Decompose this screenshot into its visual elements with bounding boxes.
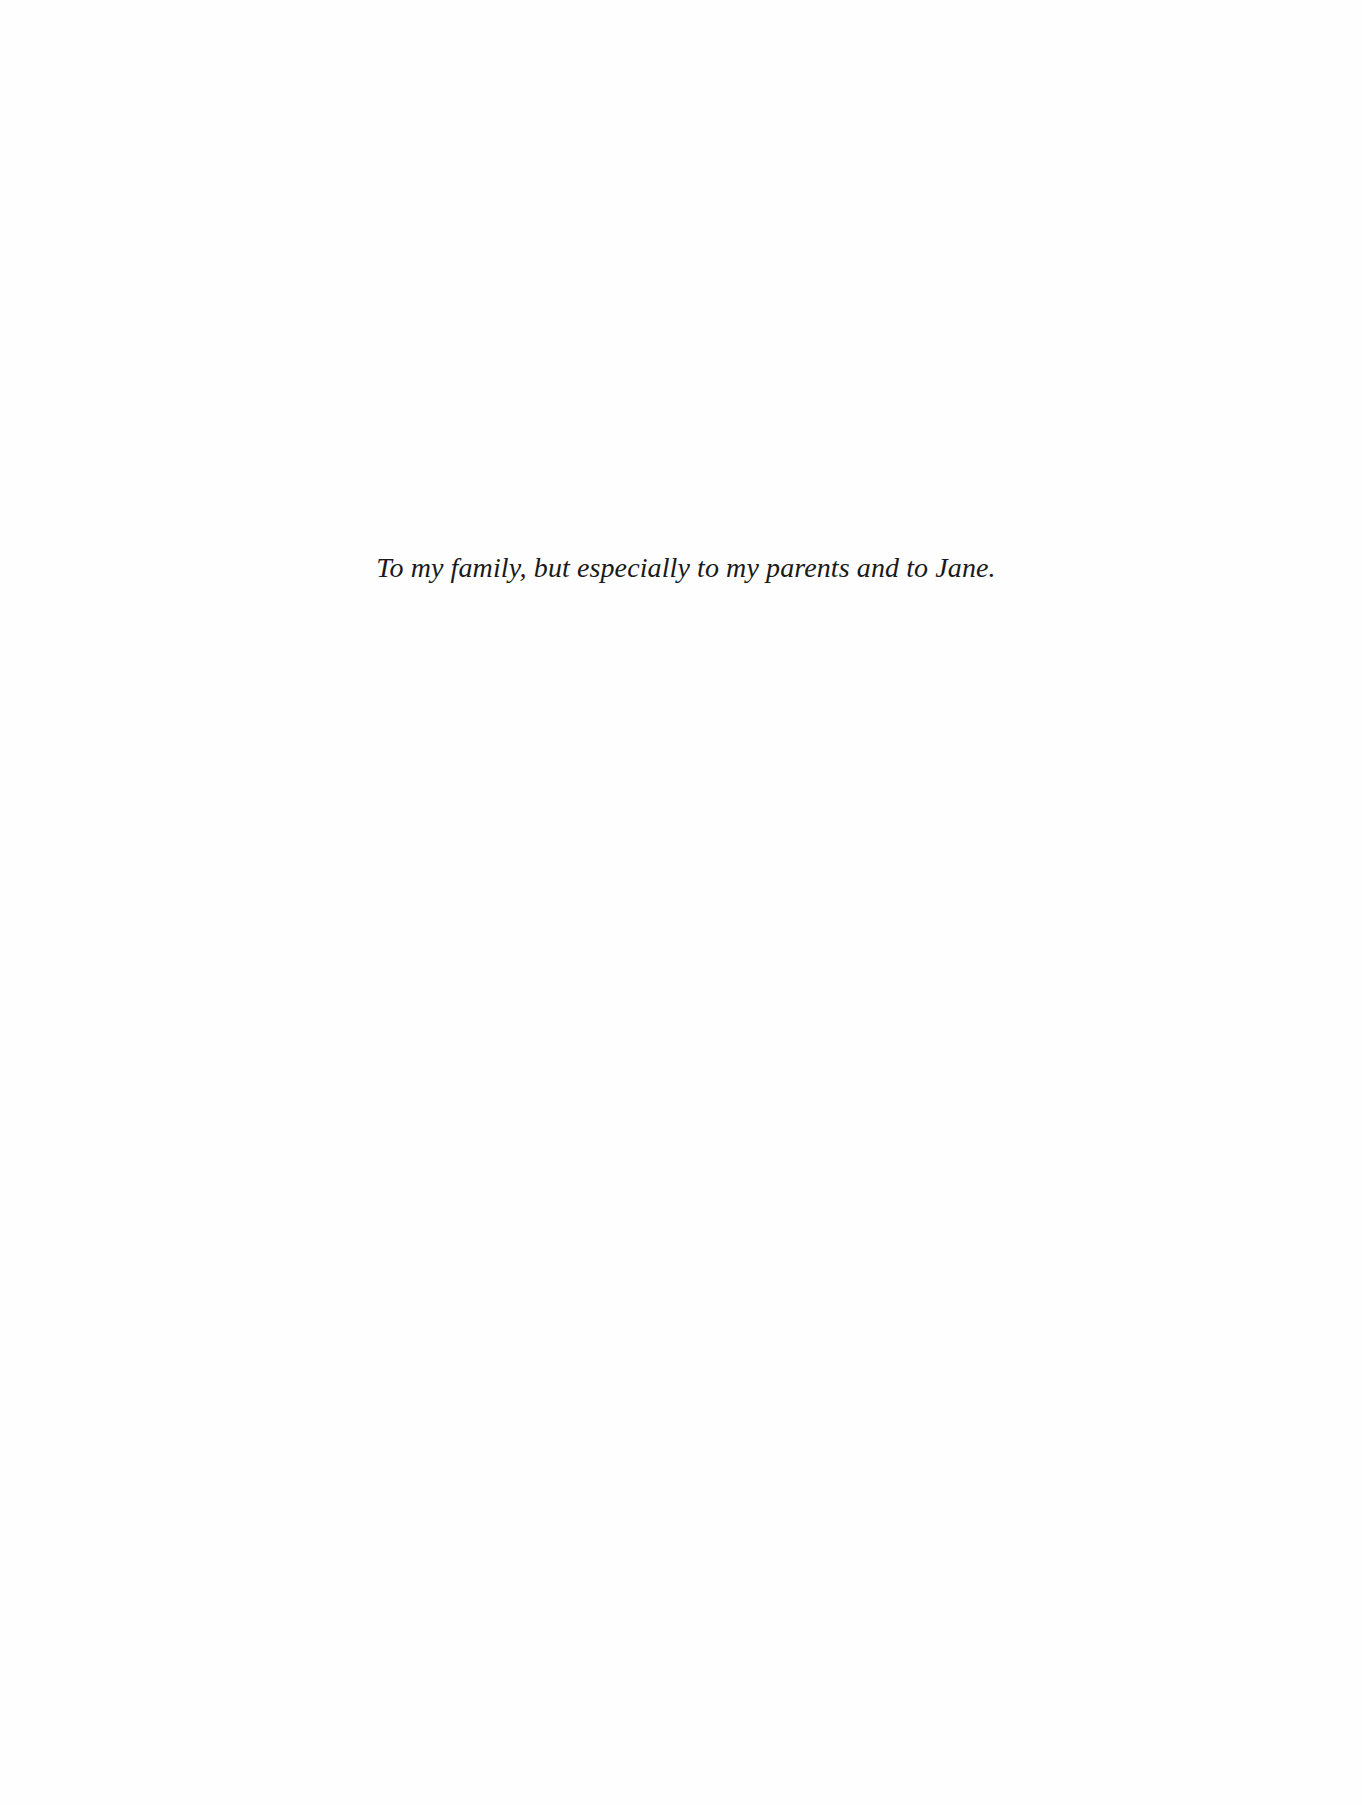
dedication-text: To my family, but especially to my paren… <box>0 550 1362 586</box>
document-page: To my family, but especially to my paren… <box>0 0 1362 1805</box>
